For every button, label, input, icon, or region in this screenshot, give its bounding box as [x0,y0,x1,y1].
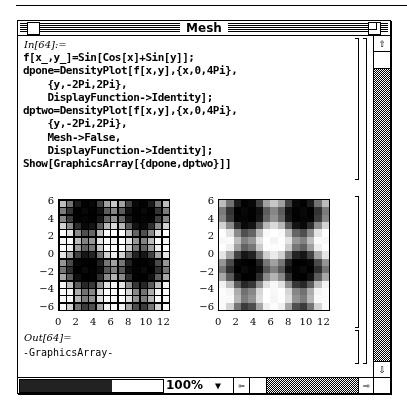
x-tick-label: 8 [285,317,291,327]
x-tick-label: 2 [233,317,239,327]
plot-frame [218,199,330,311]
x-tick-label: 10 [300,317,313,327]
code-line: DisplayFunction->Identity]; [23,144,237,157]
output-label: Out[64]= [24,332,72,343]
code-line: dptwo=DensityPlot[f[x,y],{x,0,4Pi}, [23,104,237,117]
desktop-menubar-edge [16,5,407,6]
graphics-cell-bracket[interactable] [355,196,359,328]
y-tick-label: −4 [190,284,214,294]
scroll-left-arrow-icon[interactable]: ⇦ [234,378,250,393]
zoom-dropdown-icon[interactable]: ▼ [215,378,221,393]
notebook-content[interactable]: In[64]:= f[x_,y_]=Sin[Cos[x]+Sin[y]];dpo… [18,36,373,378]
notebook-window: Mesh In[64]:= f[x_,y_]=Sin[Cos[x]+Sin[y]… [17,20,391,394]
x-tick-label: 2 [73,317,79,327]
ruler-ticks [20,380,163,386]
magnification-ruler[interactable] [19,379,164,393]
window-title: Mesh [180,21,228,35]
scroll-up-arrow-icon[interactable]: ⇧ [374,36,390,52]
x-tick-label: 12 [317,317,330,327]
y-tick-label: −6 [30,302,54,312]
x-tick-label: 6 [268,317,274,327]
x-tick-label: 4 [90,317,96,327]
y-tick-label: 4 [30,214,54,224]
code-line: {y,-2Pi,2Pi}, [23,78,237,91]
bottom-bar: 100% ▼ ⇦ ⇨ [18,377,390,393]
y-tick-label: 0 [30,249,54,259]
group-cell-bracket[interactable] [363,38,367,364]
x-tick-label: 8 [125,317,131,327]
scroll-right-arrow-icon[interactable]: ⇨ [358,378,374,393]
x-tick-label: 0 [55,317,61,327]
code-line: Show[GraphicsArray[{dpone,dptwo}]] [23,157,237,170]
vertical-scroll-thumb[interactable] [374,52,390,69]
title-bar[interactable]: Mesh [18,21,390,36]
grow-box[interactable] [373,378,390,393]
x-tick-label: 6 [108,317,114,327]
y-tick-label: −4 [30,284,54,294]
x-tick-label: 12 [157,317,170,327]
y-tick-label: 2 [30,231,54,241]
input-code[interactable]: f[x_,y_]=Sin[Cos[x]+Sin[y]];dpone=Densit… [23,51,237,171]
density-cell [322,303,330,311]
y-tick-label: 0 [190,249,214,259]
vertical-scrollbar[interactable]: ⇧ ⇩ [373,36,390,377]
zoom-box[interactable] [368,22,381,35]
horizontal-scroll-thumb[interactable] [250,378,267,393]
y-tick-label: −2 [190,267,214,277]
output-cell-bracket[interactable] [355,330,359,364]
x-tick-label: 4 [250,317,256,327]
x-tick-label: 0 [215,317,221,327]
y-tick-label: 6 [190,196,214,206]
code-line: dpone=DensityPlot[f[x,y],{x,0,4Pi}, [23,64,237,77]
density-cell [162,303,170,311]
input-label: In[64]:= [24,39,67,50]
code-line: DisplayFunction->Identity]; [23,91,237,104]
y-tick-label: −2 [30,267,54,277]
x-tick-label: 10 [140,317,153,327]
y-tick-label: −6 [190,302,214,312]
code-line: f[x_,y_]=Sin[Cos[x]+Sin[y]]; [23,51,237,64]
code-line: {y,-2Pi,2Pi}, [23,117,237,130]
input-cell-bracket[interactable] [355,38,359,180]
zoom-level[interactable]: 100% [166,378,203,393]
output-value: -GraphicsArray- [23,347,113,358]
y-tick-label: 6 [30,196,54,206]
code-line: Mesh->False, [23,131,237,144]
scroll-down-arrow-icon[interactable]: ⇩ [374,361,390,377]
horizontal-scrollbar[interactable]: ⇦ ⇨ [233,378,374,393]
plot-frame [58,199,170,311]
y-tick-label: 2 [190,231,214,241]
y-tick-label: 4 [190,214,214,224]
